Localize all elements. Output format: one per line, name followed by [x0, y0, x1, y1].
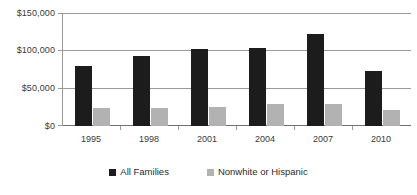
- x-tick-label-1998: 1998: [120, 133, 178, 145]
- x-tick-mark-5: [352, 126, 353, 130]
- bar-nonwhite-or-hispanic-1998[interactable]: [151, 108, 168, 126]
- x-tick-label-2010: 2010: [352, 133, 410, 145]
- x-axis-labels: 199519982001200420072010: [62, 133, 410, 153]
- x-tick-mark-3: [236, 126, 237, 130]
- chart-legend: All Families Nonwhite or Hispanic: [0, 162, 417, 182]
- x-tick-mark-2: [178, 126, 179, 130]
- bar-all-families-1995[interactable]: [75, 66, 92, 126]
- bar-all-families-1998[interactable]: [133, 56, 150, 126]
- bar-all-families-2001[interactable]: [191, 49, 208, 126]
- x-tick-label-2007: 2007: [294, 133, 352, 145]
- bar-group-1998: [133, 13, 168, 126]
- bar-all-families-2004[interactable]: [249, 48, 266, 126]
- legend-label-all-families: All Families: [120, 167, 169, 177]
- legend-swatch-black-icon: [109, 169, 116, 176]
- bars-layer: [63, 13, 411, 126]
- bar-chart: $150,000 $100,000 $50,000 $0 19951998200…: [0, 0, 417, 195]
- bar-group-2007: [307, 13, 342, 126]
- bar-all-families-2007[interactable]: [307, 34, 324, 126]
- legend-item-all-families: All Families: [109, 167, 169, 177]
- bar-all-families-2010[interactable]: [365, 71, 382, 126]
- y-tick-label-50000: $50,000: [22, 84, 55, 93]
- bar-nonwhite-or-hispanic-1995[interactable]: [93, 108, 110, 126]
- bar-group-2004: [249, 13, 284, 126]
- bar-nonwhite-or-hispanic-2010[interactable]: [383, 110, 400, 126]
- bar-nonwhite-or-hispanic-2007[interactable]: [325, 104, 342, 126]
- x-tick-label-1995: 1995: [62, 133, 120, 145]
- bar-group-1995: [75, 13, 110, 126]
- legend-label-nonwhite-or-hispanic: Nonwhite or Hispanic: [218, 167, 308, 177]
- bar-group-2010: [365, 13, 400, 126]
- x-tick-label-2004: 2004: [236, 133, 294, 145]
- y-tick-label-100000: $100,000: [17, 46, 55, 55]
- x-tick-label-2001: 2001: [178, 133, 236, 145]
- y-tick-label-0: $0: [45, 122, 55, 131]
- y-axis-labels: $150,000 $100,000 $50,000 $0: [0, 0, 58, 140]
- x-tick-mark-1: [120, 126, 121, 130]
- x-tick-mark-4: [294, 126, 295, 130]
- bar-nonwhite-or-hispanic-2001[interactable]: [209, 107, 226, 126]
- y-tick-label-150000: $150,000: [17, 9, 55, 18]
- plot-area: [62, 13, 411, 126]
- bar-group-2001: [191, 13, 226, 126]
- bar-nonwhite-or-hispanic-2004[interactable]: [267, 104, 284, 126]
- legend-item-nonwhite-or-hispanic: Nonwhite or Hispanic: [207, 167, 308, 177]
- legend-swatch-gray-icon: [207, 169, 214, 176]
